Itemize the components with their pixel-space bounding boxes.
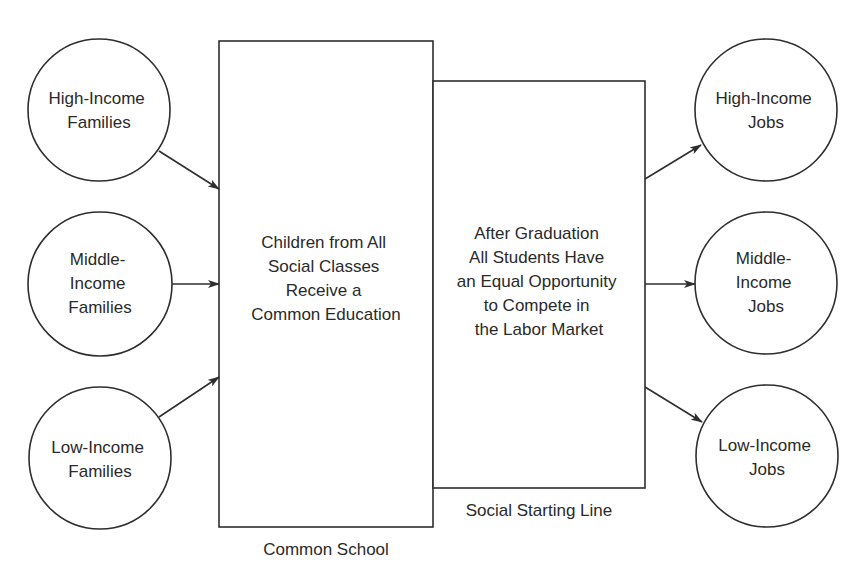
node-label-line: Middle-	[736, 249, 792, 268]
node-label-line: Families	[67, 113, 130, 132]
node-label-line: Income	[70, 274, 126, 293]
common-school-text-line: Children from All	[261, 233, 386, 252]
node-label-line: Families	[68, 462, 131, 481]
starting-line-text-line: to Compete in	[484, 296, 590, 315]
node-middle-income-families: Middle- Income Families	[28, 212, 172, 356]
common-school-caption: Common School	[263, 540, 389, 559]
common-school-text-line: Common Education	[251, 305, 400, 324]
starting-line-text-line: the Labor Market	[475, 320, 604, 339]
common-school-diagram: High-Income Families Middle- Income Fami…	[0, 0, 867, 578]
arrow-low-families-to-school	[159, 377, 219, 417]
high-income-families-circle	[28, 39, 170, 181]
starting-line-text-line: an Equal Opportunity	[457, 272, 617, 291]
node-label-line: High-Income	[715, 89, 811, 108]
node-low-income-families: Low-Income Families	[29, 387, 171, 529]
arrow-line-to-high-jobs	[645, 145, 701, 179]
node-low-income-jobs: Low-Income Jobs	[696, 385, 838, 527]
node-middle-income-jobs: Middle- Income Jobs	[695, 212, 837, 354]
low-income-jobs-circle	[696, 385, 838, 527]
starting-line-text-line: All Students Have	[469, 248, 604, 267]
node-high-income-jobs: High-Income Jobs	[695, 39, 837, 181]
node-label-line: Middle-	[70, 250, 126, 269]
common-school-box: Children from All Social Classes Receive…	[219, 41, 433, 527]
node-label-line: Low-Income	[51, 438, 144, 457]
node-label-line: High-Income	[48, 89, 144, 108]
arrow-line-to-low-jobs	[645, 387, 702, 422]
arrow-high-families-to-school	[159, 151, 219, 189]
svg-text:After Graduation All Stu: After Graduation All Students Have an Eq…	[457, 224, 621, 339]
node-label-line: Jobs	[749, 460, 785, 479]
social-starting-line-box: After Graduation All Students Have an Eq…	[433, 81, 645, 488]
node-label-line: Jobs	[748, 297, 784, 316]
low-income-families-circle	[29, 387, 171, 529]
node-label-line: Families	[68, 298, 131, 317]
social-starting-line-caption: Social Starting Line	[466, 501, 612, 520]
node-high-income-families: High-Income Families	[28, 39, 170, 181]
starting-line-text-line: After Graduation	[474, 224, 599, 243]
node-label-line: Income	[736, 273, 792, 292]
common-school-text-line: Receive a	[286, 281, 362, 300]
node-label-line: Low-Income	[718, 436, 811, 455]
node-label-line: Jobs	[748, 113, 784, 132]
common-school-text-line: Social Classes	[268, 257, 380, 276]
high-income-jobs-circle	[695, 39, 837, 181]
svg-text:Middle- Income Fam: Middle- Income Families	[68, 250, 131, 317]
